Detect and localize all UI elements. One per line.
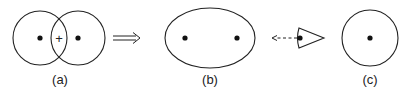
ellipse xyxy=(165,8,255,68)
label-c: (c) xyxy=(362,72,377,87)
dot-right xyxy=(75,35,80,40)
dot-c xyxy=(367,35,372,40)
eye-cone-icon xyxy=(297,28,324,48)
dot-b-right xyxy=(234,35,239,40)
label-a: (a) xyxy=(52,72,68,87)
panel-c: (c) xyxy=(342,10,398,87)
label-b: (b) xyxy=(202,72,218,87)
dot-left xyxy=(37,35,42,40)
overlap-plus-sign: + xyxy=(55,31,63,46)
diagram-canvas: + (a) (b) (c) xyxy=(0,0,411,91)
panel-b: (b) xyxy=(165,8,255,87)
double-arrow-icon xyxy=(113,33,140,44)
panel-a: + (a) xyxy=(13,11,105,87)
dot-b-left xyxy=(182,35,187,40)
dashed-arrow-icon xyxy=(272,36,297,41)
